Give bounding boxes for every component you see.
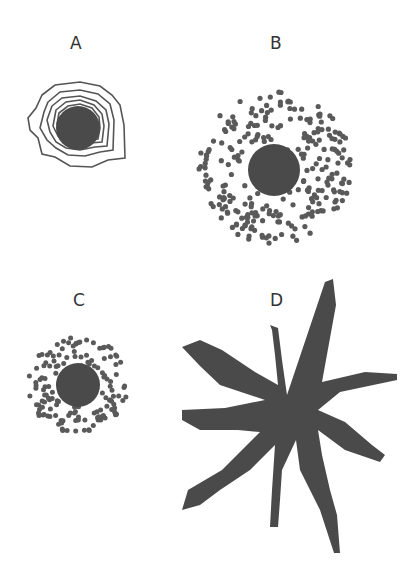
diagram-canvas (0, 0, 417, 574)
panel-d-star-figure (182, 279, 397, 553)
panel-c-nucleus (56, 363, 100, 407)
panel-b-nucleus (248, 144, 300, 196)
panel-a-nucleus (56, 106, 100, 150)
